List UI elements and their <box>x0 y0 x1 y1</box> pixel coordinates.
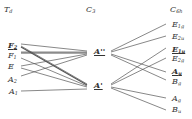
column-title-c3: C3 <box>86 6 95 15</box>
label-au: Au <box>172 67 182 77</box>
label-e2u: E2u <box>172 33 184 42</box>
label-f1: F1 <box>8 52 17 61</box>
correlation-lines <box>0 0 192 119</box>
column-title-c6h: C6h <box>170 6 183 15</box>
label-a-double-prime: A'' <box>94 47 105 55</box>
label-bu: Bu <box>172 106 181 115</box>
label-a-prime: A' <box>94 81 103 89</box>
label-e1g: E1g <box>172 21 184 30</box>
label-ag: Ag <box>172 95 181 104</box>
label-bg: Bg <box>172 78 181 87</box>
label-a1: A1 <box>9 88 18 97</box>
label-e2g: E2g <box>172 55 184 64</box>
label-e: E <box>8 63 14 71</box>
column-title-td: Td <box>4 6 13 15</box>
label-f2: F2 <box>8 41 17 51</box>
label-a2: A2 <box>8 76 17 85</box>
